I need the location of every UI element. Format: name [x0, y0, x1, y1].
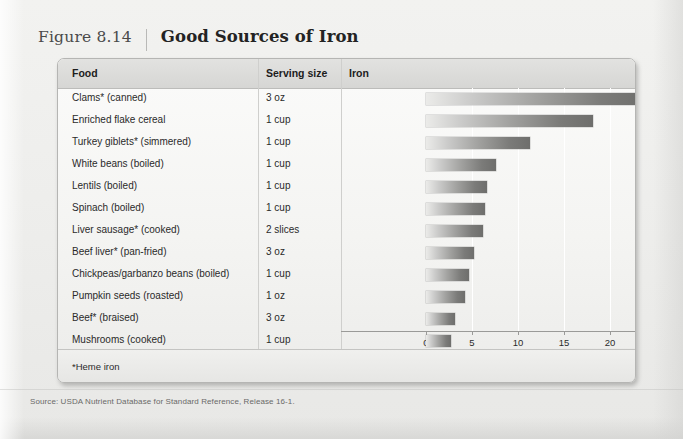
table-row: Chickpeas/garbanzo beans (boiled)1 cup — [58, 264, 635, 286]
table-row: Enriched flake cereal1 cup — [58, 110, 635, 132]
table-row: Liver sausage* (cooked)2 slices — [58, 220, 635, 242]
cell-food-name: Pumpkin seeds (roasted) — [72, 290, 183, 301]
page-title: Good Sources of Iron — [161, 27, 359, 46]
cell-serving-size: 1 cup — [266, 158, 290, 169]
cell-food-name: Lentils (boiled) — [72, 180, 137, 191]
footnote-strip: *Heme iron — [58, 349, 635, 383]
cell-food-name: Mushrooms (cooked) — [72, 334, 166, 345]
bar-iron — [426, 269, 469, 281]
table-row: Spinach (boiled)1 cup — [58, 198, 635, 220]
footnote-text: *Heme iron — [72, 361, 120, 372]
cell-serving-size: 1 cup — [266, 180, 290, 191]
table-body: Clams* (canned)3 ozEnriched flake cereal… — [58, 88, 635, 349]
cell-food-name: Beef liver* (pan-fried) — [72, 246, 166, 257]
cell-food-name: Turkey giblets* (simmered) — [72, 136, 191, 147]
cell-serving-size: 1 cup — [266, 334, 290, 345]
bar-iron — [426, 203, 485, 215]
figure-header: Figure 8.14 Good Sources of Iron — [38, 27, 359, 53]
cell-serving-size: 1 cup — [266, 114, 290, 125]
chart-panel: Food Serving size Iron 0510152025 Millig… — [57, 58, 636, 383]
table-row: Beef* (braised)3 oz — [58, 308, 635, 330]
bar-iron — [426, 115, 593, 127]
cell-serving-size: 3 oz — [266, 92, 285, 103]
table-row: Turkey giblets* (simmered)1 cup — [58, 132, 635, 154]
table-row: White beans (boiled)1 cup — [58, 154, 635, 176]
bar-iron — [426, 137, 530, 149]
cell-food-name: Clams* (canned) — [72, 92, 146, 103]
bar-iron — [426, 93, 636, 105]
chart-panel-inner: Food Serving size Iron 0510152025 Millig… — [58, 59, 635, 382]
cell-food-name: Liver sausage* (cooked) — [72, 224, 180, 235]
cell-serving-size: 2 slices — [266, 224, 299, 235]
bar-iron — [426, 181, 487, 193]
cell-serving-size: 1 cup — [266, 268, 290, 279]
table-row: Lentils (boiled)1 cup — [58, 176, 635, 198]
bar-iron — [426, 159, 496, 171]
cell-food-name: Spinach (boiled) — [72, 202, 144, 213]
cell-serving-size: 3 oz — [266, 246, 285, 257]
header-divider — [146, 29, 147, 51]
table-row: Beef liver* (pan-fried)3 oz — [58, 242, 635, 264]
figure-page: Figure 8.14 Good Sources of Iron Food Se… — [0, 0, 683, 439]
table-row: Clams* (canned)3 oz — [58, 88, 635, 110]
column-header-food: Food — [72, 67, 98, 79]
table-row: Pumpkin seeds (roasted)1 oz — [58, 286, 635, 308]
cell-food-name: White beans (boiled) — [72, 158, 164, 169]
cell-serving-size: 1 cup — [266, 136, 290, 147]
source-caption: Source: USDA Nutrient Database for Stand… — [30, 397, 295, 406]
figure-number: Figure 8.14 — [38, 28, 132, 46]
bar-iron — [426, 335, 451, 347]
cell-serving-size: 1 cup — [266, 202, 290, 213]
bar-iron — [426, 313, 455, 325]
cell-food-name: Beef* (braised) — [72, 312, 139, 323]
bar-iron — [426, 225, 483, 237]
bar-iron — [426, 247, 474, 259]
source-divider — [0, 389, 683, 390]
cell-food-name: Chickpeas/garbanzo beans (boiled) — [72, 268, 229, 279]
cell-serving-size: 3 oz — [266, 312, 285, 323]
column-header-serving-size: Serving size — [266, 67, 327, 79]
cell-serving-size: 1 oz — [266, 290, 285, 301]
bar-iron — [426, 291, 465, 303]
cell-food-name: Enriched flake cereal — [72, 114, 165, 125]
